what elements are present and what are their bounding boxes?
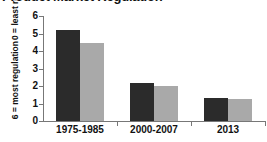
x-axis-separator (265, 121, 266, 126)
y-axis-tick-label: 3 (32, 64, 38, 74)
bar-chart: Product Market Regulation 6 = most regul… (0, 0, 267, 142)
x-axis-tick-label: 1975-1985 (56, 124, 104, 135)
y-axis-tick (39, 121, 43, 122)
y-axis-tick (39, 86, 43, 87)
y-axis-tick (39, 16, 43, 17)
y-axis-tick (39, 69, 43, 70)
bar (154, 86, 178, 121)
x-axis-tick-label: 2000-2007 (130, 124, 178, 135)
x-axis-separator (191, 121, 192, 126)
y-axis-tick-label: 0 (32, 116, 38, 126)
x-axis-separator (117, 121, 118, 126)
y-axis-label-line-1: 6 = most regulation (10, 41, 20, 119)
bar (130, 83, 154, 122)
x-axis-tick-label: 2013 (217, 124, 239, 135)
y-axis-tick-label: 5 (32, 29, 38, 39)
y-axis-tick (39, 34, 43, 35)
y-axis-tick-label: 2 (32, 81, 38, 91)
bar (80, 43, 104, 121)
y-axis-tick-label: 4 (32, 46, 38, 56)
y-axis-label: 6 = most regulation 0 = least regulation (2, 0, 28, 97)
y-axis-tick-label: 6 (32, 11, 38, 21)
y-axis-label-line-2: 0 = least regulation (10, 0, 20, 40)
bar (228, 99, 252, 121)
y-axis-line (43, 16, 44, 121)
y-axis-tick (39, 104, 43, 105)
plot-area: 0123456 (43, 16, 265, 121)
y-axis-tick-label: 1 (32, 99, 38, 109)
bar (56, 30, 80, 121)
bar (204, 98, 228, 121)
y-axis-tick (39, 51, 43, 52)
x-axis-line (43, 121, 265, 122)
